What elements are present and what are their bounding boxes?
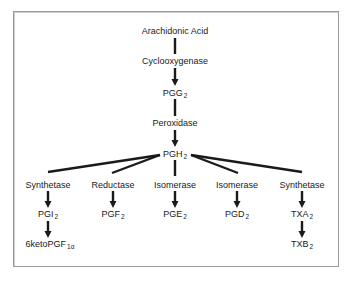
pgf2-subscript: 2 [121, 213, 125, 220]
txb2-base: TXB [291, 239, 309, 249]
txb2-subscript: 2 [309, 243, 313, 250]
product-6keto-pgf1a: 6ketoPGF1α [26, 239, 75, 252]
pgg2-base: PGG [163, 88, 183, 98]
pgi2-base: PGI [38, 209, 54, 219]
edge-pgh2-synth1 [48, 155, 160, 172]
pge2-subscript: 2 [183, 213, 187, 220]
6keto-pgf-subscript: 1α [67, 243, 74, 250]
enzyme-synthetase-pgi: Synthetase [25, 180, 70, 190]
product-pge2: PGE2 [163, 209, 187, 222]
node-pgg2: PGG2 [163, 88, 188, 101]
pgd2-subscript: 2 [245, 213, 249, 220]
pgi2-subscript: 2 [54, 213, 58, 220]
node-cyclooxygenase: Cyclooxygenase [142, 56, 208, 66]
enzyme-isomerase-pge: Isomerase [154, 180, 196, 190]
enzyme-isomerase-pgd: Isomerase [216, 180, 258, 190]
product-txb2: TXB2 [291, 239, 313, 252]
6keto-pgf-base: 6ketoPGF [26, 239, 67, 249]
product-txa2: TXA2 [291, 209, 313, 222]
node-arachidonic-acid: Arachidonic Acid [142, 26, 209, 36]
pgd2-base: PGD [225, 209, 245, 219]
pgh2-subscript: 2 [183, 153, 187, 160]
pgg2-subscript: 2 [184, 92, 188, 99]
enzyme-synthetase-txa: Synthetase [279, 180, 324, 190]
enzyme-reductase: Reductase [91, 180, 134, 190]
product-pgf2: PGF2 [101, 209, 124, 222]
edge-pgh2-synth2 [191, 155, 302, 172]
node-pgh2: PGH2 [163, 149, 187, 162]
pgh2-base: PGH [163, 149, 183, 159]
product-pgi2: PGI2 [38, 209, 58, 222]
txa2-subscript: 2 [309, 213, 313, 220]
node-peroxidase: Peroxidase [152, 118, 197, 128]
pge2-base: PGE [163, 209, 182, 219]
product-pgd2: PGD2 [225, 209, 249, 222]
pgf2-base: PGF [101, 209, 120, 219]
txa2-base: TXA [291, 209, 309, 219]
